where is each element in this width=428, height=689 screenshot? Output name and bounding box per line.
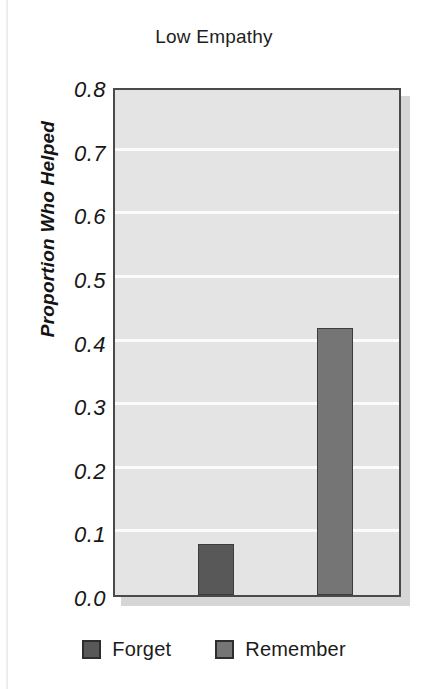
gridline — [115, 148, 399, 151]
gridline — [115, 275, 399, 278]
bar-remember — [317, 328, 353, 595]
legend-item-remember[interactable]: Remember — [215, 638, 346, 661]
y-axis-tick-label: 0.8 — [44, 77, 106, 103]
chart-title: Low Empathy — [0, 26, 428, 48]
y-axis-tick-label: 0.1 — [44, 522, 106, 548]
y-axis-tick-labels: 0.80.70.60.50.40.30.20.10.0 — [36, 88, 106, 597]
y-axis-tick-label: 0.3 — [44, 395, 106, 421]
legend-label: Forget — [112, 638, 171, 661]
gridline — [115, 529, 399, 532]
bar-forget — [198, 544, 234, 595]
y-axis-tick-label: 0.6 — [44, 204, 106, 230]
gridline — [115, 339, 399, 342]
legend-label: Remember — [245, 638, 346, 661]
y-axis-tick-label: 0.5 — [44, 268, 106, 294]
gridline — [115, 211, 399, 214]
legend-swatch-icon — [215, 640, 234, 659]
legend-item-forget[interactable]: Forget — [82, 638, 171, 661]
gridline — [115, 402, 399, 405]
chart-legend: ForgetRemember — [0, 638, 428, 661]
y-axis-tick-label: 0.4 — [44, 332, 106, 358]
legend-swatch-icon — [82, 640, 101, 659]
y-axis-tick-label: 0.0 — [44, 586, 106, 612]
y-axis-tick-label: 0.2 — [44, 459, 106, 485]
y-axis-tick-label: 0.7 — [44, 141, 106, 167]
gridline — [115, 466, 399, 469]
plot-area — [113, 88, 401, 597]
page-scan-edge — [6, 0, 8, 689]
